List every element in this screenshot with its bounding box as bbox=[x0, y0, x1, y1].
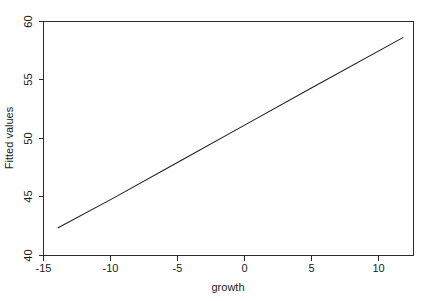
x-axis-tick-labels: -15 -10 -5 0 5 10 bbox=[36, 262, 385, 274]
y-axis-ticks bbox=[39, 22, 44, 256]
x-tick-label-neg15: -15 bbox=[36, 262, 52, 274]
fitted-values-line bbox=[58, 38, 403, 228]
x-axis-title: growth bbox=[211, 281, 244, 293]
x-tick-label-neg5: -5 bbox=[173, 262, 183, 274]
x-tick-label-10: 10 bbox=[372, 262, 384, 274]
chart-figure: 60 55 50 45 40 -15 -10 -5 0 5 10 growth … bbox=[0, 0, 429, 301]
x-tick-label-neg10: -10 bbox=[103, 262, 119, 274]
x-tick-label-5: 5 bbox=[308, 262, 314, 274]
y-tick-label-55: 55 bbox=[22, 73, 34, 85]
x-tick-label-0: 0 bbox=[241, 262, 247, 274]
y-tick-label-45: 45 bbox=[22, 190, 34, 202]
y-tick-label-40: 40 bbox=[22, 249, 34, 261]
y-tick-label-60: 60 bbox=[22, 15, 34, 27]
y-axis-tick-labels: 60 55 50 45 40 bbox=[22, 15, 34, 261]
x-axis-ticks bbox=[44, 256, 379, 261]
plot-frame-box bbox=[44, 22, 414, 256]
plot-canvas: 60 55 50 45 40 -15 -10 -5 0 5 10 growth … bbox=[0, 0, 429, 301]
y-tick-label-50: 50 bbox=[22, 132, 34, 144]
y-axis-title: Fitted values bbox=[3, 106, 15, 169]
